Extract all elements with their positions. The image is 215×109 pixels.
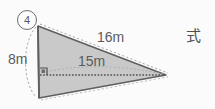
base-length-label: 15m (78, 54, 105, 68)
slant-side-length-label: 16m (97, 30, 124, 44)
height-length-label: 8m (8, 52, 27, 66)
figure-page: 4 16m 15m 8m 式 (0, 0, 215, 109)
answer-prompt-label: 式 (186, 29, 201, 44)
right-angle-dot (42, 70, 46, 74)
problem-number-badge: 4 (17, 10, 37, 30)
height-edge (38, 26, 39, 98)
